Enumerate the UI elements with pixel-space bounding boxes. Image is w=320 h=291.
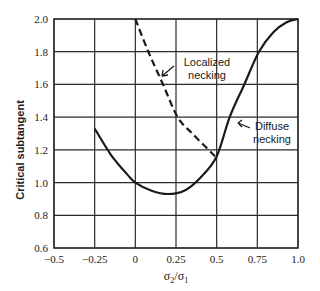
x-tick-label: 0 <box>133 253 139 265</box>
svg-text:Localized: Localized <box>184 56 230 68</box>
x-tick-label: −0.5 <box>44 253 64 265</box>
x-tick-label: 1.0 <box>291 253 305 265</box>
x-tick-label: 0.25 <box>166 253 186 265</box>
y-tick-label: 1.2 <box>34 144 48 156</box>
y-axis-label: Critical subtangent <box>14 100 26 200</box>
annotation-diffuse-necking: Diffuse necking <box>238 120 291 145</box>
y-tick-label: 0.6 <box>34 242 48 254</box>
svg-text:necking: necking <box>253 133 291 145</box>
y-tick-label: 0.8 <box>34 209 48 221</box>
y-tick-label: 1.0 <box>34 177 48 189</box>
diffuse-necking-curve <box>95 19 298 194</box>
svg-text:necking: necking <box>188 69 226 81</box>
localized-necking-curve <box>135 19 215 156</box>
series <box>95 19 298 194</box>
arrow-icon <box>162 66 174 76</box>
annotation-localized-necking: Localized necking <box>162 56 230 81</box>
x-tick-label: 0.75 <box>248 253 268 265</box>
y-tick-label: 1.6 <box>34 78 48 90</box>
y-tick-label: 2.0 <box>34 13 48 25</box>
x-tick-label: 0.5 <box>210 253 224 265</box>
svg-text:Diffuse: Diffuse <box>255 120 289 132</box>
chart: −0.5−0.2500.250.50.751.00.60.81.01.21.41… <box>0 0 320 291</box>
y-tick-label: 1.8 <box>34 46 48 58</box>
x-tick-label: −0.25 <box>82 253 108 265</box>
y-tick-label: 1.4 <box>34 111 48 123</box>
x-axis-label: σ2/σ1 <box>164 269 188 285</box>
